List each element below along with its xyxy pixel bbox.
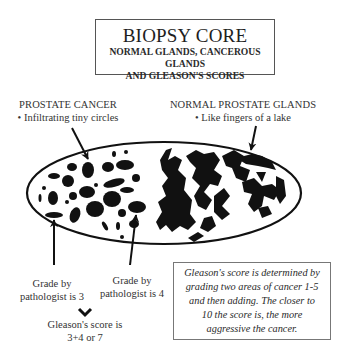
gleason-score-line-2: 3+4 or 7 bbox=[35, 332, 135, 345]
info-line-2: grading two areas of cancer 1-5 bbox=[174, 280, 330, 294]
info-line-3: and then adding. The closer to bbox=[174, 294, 330, 308]
grade-3-line-2: pathologist is 3 bbox=[12, 291, 92, 304]
gleason-info-box: Gleason's score is determined by grading… bbox=[173, 262, 331, 340]
normal-arrow bbox=[251, 126, 256, 150]
grade-3-label: Grade by pathologist is 3 bbox=[12, 278, 92, 303]
gleason-score-line-1: Gleason's score is bbox=[35, 319, 135, 332]
grade-3-line-1: Grade by bbox=[12, 278, 92, 291]
grade-4-line-1: Grade by bbox=[92, 275, 172, 288]
chevron-down-icon bbox=[79, 309, 91, 315]
grade-4-line-2: pathologist is 4 bbox=[92, 288, 172, 301]
info-line-5: aggressive the cancer. bbox=[174, 322, 330, 336]
gleason-score-label: Gleason's score is 3+4 or 7 bbox=[35, 319, 135, 344]
info-line-4: 10 the score is, the more bbox=[174, 308, 330, 322]
info-line-1: Gleason's score is determined by bbox=[174, 266, 330, 280]
grade-4-label: Grade by pathologist is 4 bbox=[92, 275, 172, 300]
